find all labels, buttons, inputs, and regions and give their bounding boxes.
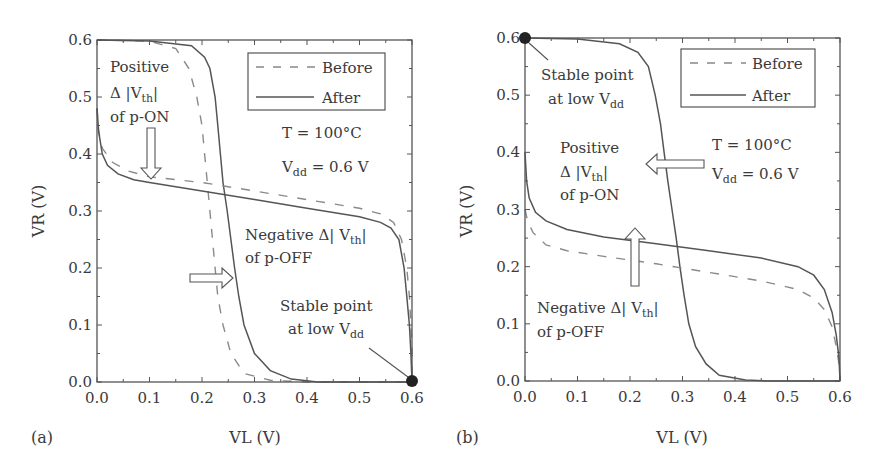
panel-a-label: (a) — [31, 428, 53, 447]
panel-a-y-label: VR (V) — [29, 185, 48, 239]
panel-b: 0.00.10.20.30.40.50.60.00.10.20.30.40.50… — [456, 29, 852, 447]
legend-before-label: Before — [752, 55, 803, 73]
x-tick-label: 0.0 — [85, 389, 109, 407]
x-tick-label: 0.1 — [138, 389, 162, 407]
stable-point-label-2: at low Vdd — [548, 90, 624, 111]
stable-point-marker — [406, 375, 418, 387]
panel-a: 0.00.10.20.30.40.50.60.00.10.20.30.40.50… — [29, 31, 424, 447]
stable-point-leader — [529, 43, 548, 60]
x-tick-label: 0.2 — [618, 388, 642, 406]
x-tick-label: 0.3 — [243, 389, 267, 407]
vdd-label: Vdd = 0.6 V — [711, 165, 800, 186]
y-tick-label: 0.6 — [496, 29, 520, 47]
y-tick-label: 0.3 — [68, 202, 92, 220]
y-tick-label: 0.3 — [496, 201, 520, 219]
stable-point-label: Stable point — [280, 297, 372, 315]
series-dashed-2 — [97, 108, 412, 382]
panel-a-legend: Before After — [248, 53, 385, 110]
legend-after-label: After — [751, 87, 791, 105]
x-tick-label: 0.0 — [513, 388, 537, 406]
negative-shift-label: Negative Δ| Vth| — [537, 299, 659, 320]
y-tick-label: 0.5 — [496, 86, 520, 104]
x-tick-label: 0.5 — [776, 388, 800, 406]
positive-shift-label: Positive — [110, 58, 169, 76]
x-tick-label: 0.4 — [723, 388, 747, 406]
temperature-label: T = 100°C — [282, 124, 362, 142]
negative-shift-of-poff: of p-OFF — [245, 249, 312, 267]
figure: 0.00.10.20.30.40.50.60.00.10.20.30.40.50… — [0, 0, 885, 467]
positive-shift-delta: Δ |Vth| — [110, 84, 158, 105]
panel-b-legend: Before After — [681, 49, 815, 107]
legend-before-label: Before — [322, 59, 373, 77]
panel-b-y-label: VR (V) — [457, 185, 476, 239]
x-tick-label: 0.5 — [348, 389, 372, 407]
y-tick-label: 0.0 — [496, 372, 520, 390]
positive-shift-label: Positive — [560, 139, 619, 157]
down-arrow-icon — [141, 128, 161, 179]
negative-shift-label: Negative Δ| Vth| — [245, 226, 367, 247]
positive-shift-delta: Δ |Vth| — [560, 163, 608, 184]
y-tick-label: 0.0 — [68, 373, 92, 391]
series-solid-3 — [97, 108, 412, 382]
y-tick-label: 0.1 — [496, 315, 520, 333]
left-arrow-icon — [646, 154, 704, 174]
y-tick-label: 0.6 — [68, 31, 92, 49]
x-tick-label: 0.1 — [566, 388, 590, 406]
x-tick-label: 0.6 — [400, 389, 424, 407]
series-dashed-1 — [525, 210, 840, 382]
right-arrow-icon — [190, 268, 233, 288]
y-tick-label: 0.1 — [68, 316, 92, 334]
positive-shift-of-pon: of p-ON — [110, 108, 169, 126]
legend-after-label: After — [321, 89, 361, 107]
x-tick-label: 0.3 — [671, 388, 695, 406]
stable-point-label-2: at low Vdd — [288, 320, 364, 341]
x-tick-label: 0.4 — [295, 389, 319, 407]
stable-point-marker — [519, 32, 531, 44]
vdd-label: Vdd = 0.6 V — [281, 158, 370, 179]
panel-b-label: (b) — [456, 428, 479, 447]
temperature-label: T = 100°C — [712, 136, 792, 154]
y-tick-label: 0.2 — [68, 259, 92, 277]
positive-shift-of-pon: of p-ON — [560, 186, 619, 204]
y-tick-label: 0.4 — [496, 143, 520, 161]
panel-a-x-label: VL (V) — [228, 428, 280, 447]
x-tick-label: 0.6 — [828, 388, 852, 406]
stable-point-leader — [369, 348, 408, 377]
x-tick-label: 0.2 — [190, 389, 214, 407]
y-tick-label: 0.4 — [68, 145, 92, 163]
y-tick-label: 0.5 — [68, 88, 92, 106]
panel-b-x-label: VL (V) — [655, 428, 707, 447]
y-tick-label: 0.2 — [496, 258, 520, 276]
up-arrow-icon — [625, 228, 645, 286]
stable-point-label: Stable point — [541, 66, 633, 84]
negative-shift-of-poff: of p-OFF — [537, 323, 604, 341]
